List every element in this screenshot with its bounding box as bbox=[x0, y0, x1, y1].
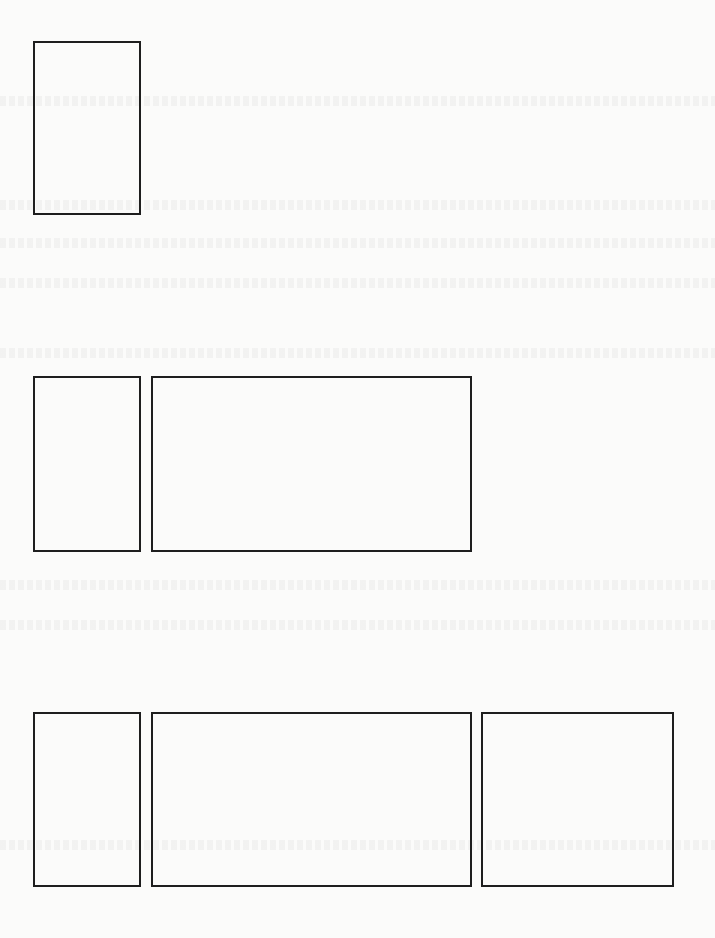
bleed-through-text bbox=[0, 238, 715, 248]
bleed-through-text bbox=[0, 620, 715, 630]
outline-box-row2-2 bbox=[151, 376, 472, 552]
outline-box-row2-1 bbox=[33, 376, 141, 552]
bleed-through-text bbox=[0, 580, 715, 590]
outline-box-row3-2 bbox=[151, 712, 472, 887]
outline-box-row3-3 bbox=[481, 712, 674, 887]
outline-box-row3-1 bbox=[33, 712, 141, 887]
bleed-through-text bbox=[0, 278, 715, 288]
bleed-through-text bbox=[0, 348, 715, 358]
outline-box-row1-1 bbox=[33, 41, 141, 215]
